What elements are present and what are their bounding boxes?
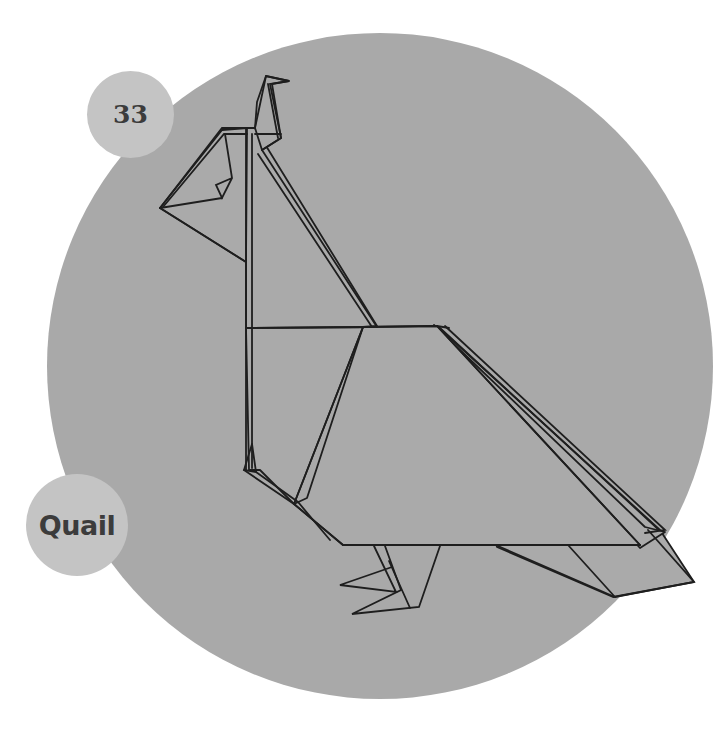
- diagram-number-badge: 33: [87, 71, 174, 158]
- diagram-number: 33: [113, 100, 148, 129]
- model-name-badge: Quail: [26, 474, 128, 576]
- model-name: Quail: [39, 510, 115, 541]
- crest: [255, 76, 289, 150]
- diagram-page: 33 Quail: [0, 0, 726, 729]
